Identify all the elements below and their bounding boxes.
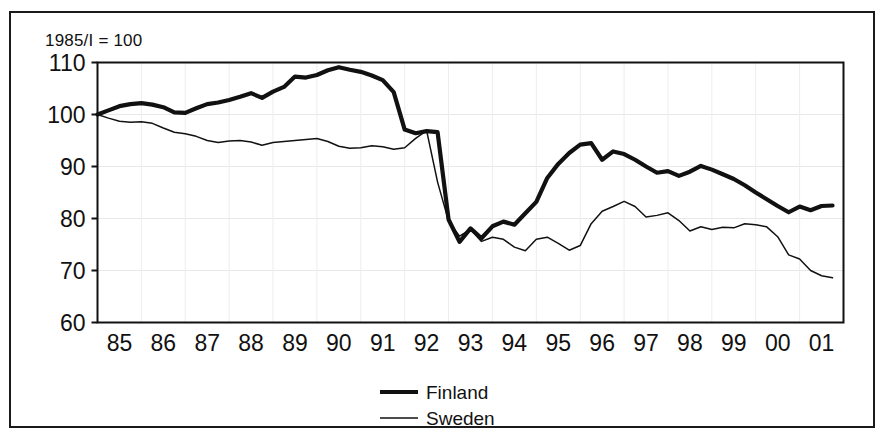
x-axis-tick-label: 98 [677, 330, 703, 356]
series-line-sweden [98, 115, 833, 278]
y-axis-tick-label: 80 [60, 206, 86, 232]
x-axis-tick-label: 95 [545, 330, 571, 356]
legend-label-finland: Finland [426, 382, 488, 403]
y-axis-tick-label: 110 [49, 50, 86, 76]
gridlines [98, 63, 844, 323]
x-axis-tick-label: 90 [326, 330, 352, 356]
x-axis-tick-label: 92 [414, 330, 440, 356]
x-axis-tick-label: 96 [589, 330, 615, 356]
x-axis-tick-label: 93 [458, 330, 484, 356]
chart-legend: FinlandSweden [380, 382, 495, 429]
x-axis-tick-label: 85 [107, 330, 133, 356]
x-axis-tick-label: 89 [282, 330, 308, 356]
figure: 1985/I = 100 11010090807060 858687888990… [0, 0, 891, 448]
x-axis-tick-labels: 8586878889909192939495969798990001 [107, 330, 835, 356]
plot-wrapper: 11010090807060 8586878889909192939495969… [0, 0, 891, 448]
y-axis-tick-label: 100 [47, 102, 85, 128]
x-axis-tick-label: 97 [633, 330, 659, 356]
x-axis-tick-label: 94 [502, 330, 528, 356]
x-axis-tick-label: 88 [238, 330, 264, 356]
y-axis-tick-labels: 11010090807060 [47, 50, 85, 336]
x-axis-tick-label: 86 [151, 330, 177, 356]
y-axis-tick-label: 70 [60, 258, 86, 284]
x-axis-tick-label: 00 [765, 330, 791, 356]
series-line-finland [98, 67, 833, 242]
line-chart: 11010090807060 8586878889909192939495969… [0, 0, 891, 448]
legend-label-sweden: Sweden [426, 408, 495, 429]
x-axis-tick-label: 91 [370, 330, 396, 356]
x-axis-tick-label: 01 [809, 330, 835, 356]
y-axis-tick-label: 60 [60, 310, 86, 336]
x-axis-tick-label: 99 [721, 330, 747, 356]
data-series-lines [98, 67, 833, 278]
x-axis-tick-label: 87 [194, 330, 220, 356]
y-axis-tick-label: 90 [60, 154, 86, 180]
plot-area-border [98, 63, 844, 323]
